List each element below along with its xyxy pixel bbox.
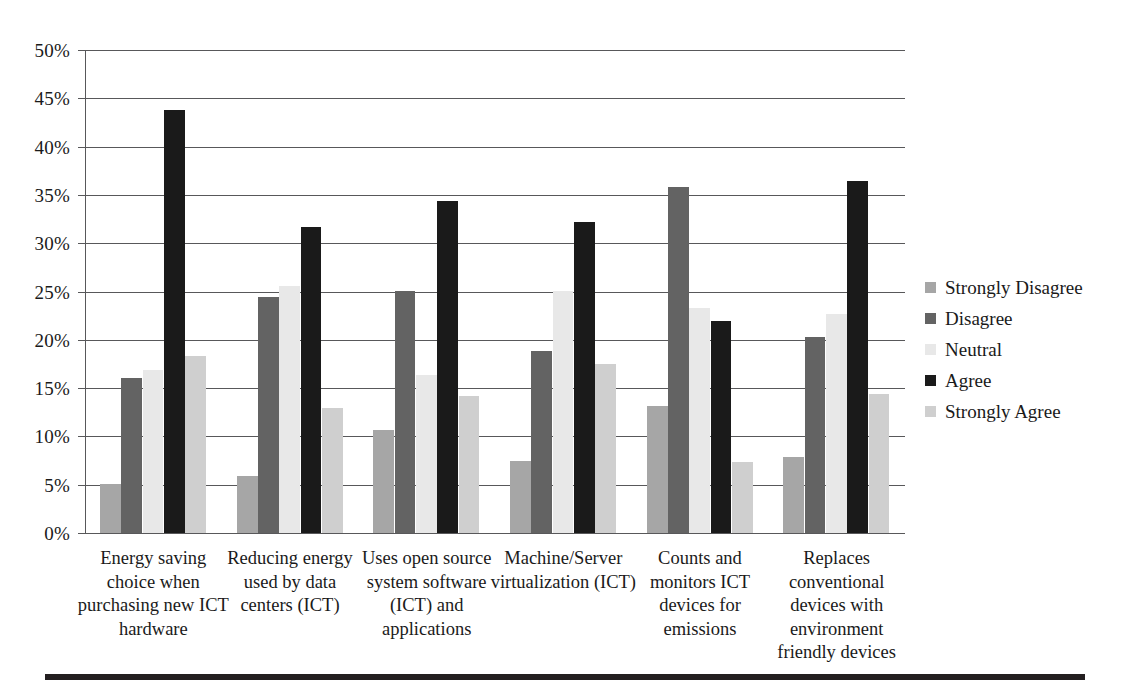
bar xyxy=(531,351,552,533)
y-axis-tick-label: 45% xyxy=(8,89,70,108)
y-axis-tick xyxy=(78,485,85,486)
plot-area xyxy=(85,50,905,533)
chart-legend: Strongly DisagreeDisagreeNeutralAgreeStr… xyxy=(925,272,1083,427)
bar xyxy=(164,110,185,533)
legend-item-label: Strongly Agree xyxy=(945,402,1061,421)
y-axis-tick xyxy=(78,340,85,341)
y-axis-tick xyxy=(78,243,85,244)
y-axis-tick-label: 50% xyxy=(8,41,70,60)
bar-group xyxy=(768,50,905,533)
bar xyxy=(847,181,868,533)
legend-swatch-icon xyxy=(925,375,936,386)
category-label-line: hardware xyxy=(73,618,234,642)
y-axis-tick-label: 35% xyxy=(8,186,70,205)
category-label-line: environment xyxy=(756,618,917,642)
bar xyxy=(437,201,458,533)
bar-group xyxy=(358,50,495,533)
legend-item[interactable]: Disagree xyxy=(925,303,1083,334)
bar xyxy=(258,297,279,533)
bar xyxy=(711,321,732,533)
bar xyxy=(647,406,668,533)
bar xyxy=(805,337,826,533)
y-axis-tick-label: 40% xyxy=(8,138,70,157)
legend-item[interactable]: Strongly Agree xyxy=(925,396,1083,427)
y-axis-tick xyxy=(78,436,85,437)
bar xyxy=(301,227,322,533)
bar-group xyxy=(495,50,632,533)
bar xyxy=(783,457,804,533)
category-label-line: devices with xyxy=(756,594,917,618)
bar xyxy=(553,291,574,533)
x-axis-category-label: Replacesconventionaldevices withenvironm… xyxy=(756,547,917,665)
category-label-line: (ICT) and xyxy=(346,594,507,618)
bar xyxy=(459,396,480,533)
bar xyxy=(869,394,890,533)
category-label-line: applications xyxy=(346,618,507,642)
legend-item-label: Disagree xyxy=(945,309,1013,328)
bar xyxy=(373,430,394,533)
bar xyxy=(121,378,142,533)
y-axis-tick xyxy=(78,98,85,99)
legend-swatch-icon xyxy=(925,282,936,293)
y-axis-tick xyxy=(78,533,85,534)
bar xyxy=(100,484,121,533)
y-axis-tick xyxy=(78,195,85,196)
bar xyxy=(732,462,753,533)
bar xyxy=(826,314,847,533)
bar-group xyxy=(632,50,769,533)
bar xyxy=(416,375,437,533)
category-label-line: conventional xyxy=(756,571,917,595)
gridline xyxy=(85,533,905,534)
bar-chart: 0%5%10%15%20%25%30%35%40%45%50% Energy s… xyxy=(0,0,1124,695)
bar xyxy=(185,356,206,533)
bar xyxy=(279,286,300,533)
legend-item[interactable]: Agree xyxy=(925,365,1083,396)
legend-item[interactable]: Neutral xyxy=(925,334,1083,365)
category-label-line: friendly devices xyxy=(756,641,917,665)
y-axis-tick xyxy=(78,147,85,148)
y-axis-tick-label: 5% xyxy=(8,476,70,495)
bar xyxy=(143,370,164,533)
bar-group xyxy=(85,50,222,533)
y-axis-tick-label: 15% xyxy=(8,379,70,398)
bar xyxy=(574,222,595,533)
category-label-line: Replaces xyxy=(756,547,917,571)
bar xyxy=(237,476,258,533)
legend-item-label: Neutral xyxy=(945,340,1002,359)
legend-item[interactable]: Strongly Disagree xyxy=(925,272,1083,303)
legend-item-label: Agree xyxy=(945,371,991,390)
y-axis-tick xyxy=(78,292,85,293)
y-axis-tick-label: 20% xyxy=(8,331,70,350)
bar xyxy=(668,187,689,533)
bar xyxy=(689,308,710,533)
y-axis-tick xyxy=(78,50,85,51)
y-axis-tick xyxy=(78,388,85,389)
y-axis-tick-label: 30% xyxy=(8,234,70,253)
legend-item-label: Strongly Disagree xyxy=(945,278,1083,297)
bar xyxy=(395,291,416,533)
bar-group xyxy=(222,50,359,533)
bar xyxy=(595,364,616,533)
y-axis-tick-label: 10% xyxy=(8,427,70,446)
bar xyxy=(322,408,343,533)
bottom-divider-rule xyxy=(45,674,1085,680)
legend-swatch-icon xyxy=(925,406,936,417)
y-axis-tick-label: 0% xyxy=(8,524,70,543)
legend-swatch-icon xyxy=(925,313,936,324)
bar xyxy=(510,461,531,533)
legend-swatch-icon xyxy=(925,344,936,355)
y-axis-tick-label: 25% xyxy=(8,283,70,302)
